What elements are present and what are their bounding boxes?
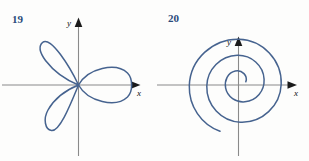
x-axis-label-19: x <box>136 88 141 98</box>
rose-curve-path-group <box>40 41 132 130</box>
y-axis-arrowhead-icon-20 <box>235 37 243 47</box>
rose-petal-upper-left <box>40 41 79 85</box>
y-axis-label-20: y <box>226 37 231 47</box>
figure-20: 20 x y <box>155 0 309 161</box>
rose-curve-plot: x y <box>0 0 155 161</box>
figure-19: 19 x y <box>0 0 155 161</box>
y-axis-label-19: y <box>66 18 71 28</box>
page-canvas: 19 x y <box>0 0 309 161</box>
x-axis-label-20: x <box>293 88 298 98</box>
y-axis-20 <box>235 37 243 157</box>
spiral-curve-plot: x y <box>155 0 309 161</box>
y-axis-arrowhead-icon-19 <box>75 18 83 28</box>
rose-petal-lower-left <box>45 85 78 131</box>
x-axis-20 <box>157 81 297 89</box>
